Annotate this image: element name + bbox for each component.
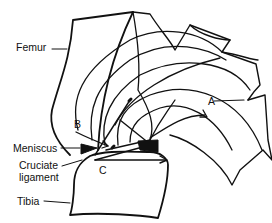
leader-lines xyxy=(0,0,272,223)
label-meniscus: Meniscus xyxy=(13,143,57,154)
label-cruciate: Cruciate xyxy=(19,160,58,171)
label-c: C xyxy=(99,165,107,176)
label-ligament: ligament xyxy=(19,172,59,183)
tibia-leader xyxy=(44,201,70,203)
label-b: B xyxy=(74,119,81,130)
knee-joint-diagram: Femur A B Meniscus Cruciate ligament C T… xyxy=(0,0,272,223)
cruciate-leader xyxy=(62,160,82,166)
label-tibia: Tibia xyxy=(17,196,39,207)
label-a: A xyxy=(208,96,215,107)
